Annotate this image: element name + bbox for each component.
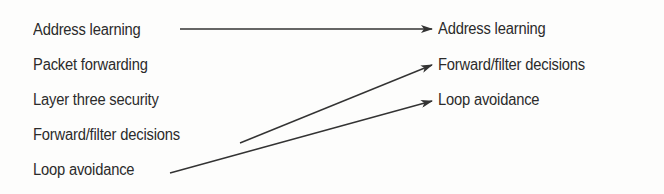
arrow-forward-filter-decisions — [240, 65, 432, 143]
connector-arrows — [0, 0, 664, 194]
arrow-loop-avoidance — [170, 101, 432, 173]
